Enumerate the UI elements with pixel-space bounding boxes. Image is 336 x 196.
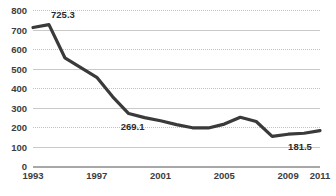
y-axis-tick-label: 600 — [11, 44, 27, 55]
x-axis-tick-label: 2001 — [150, 170, 171, 181]
y-axis-tick-label: 500 — [11, 63, 27, 74]
x-axis-tick-label: 1997 — [86, 170, 107, 181]
plot-area: 725.3269.1181.5 — [33, 10, 320, 166]
data-point-label: 725.3 — [51, 8, 75, 19]
y-axis-labels: 0100200300400500600700800 — [0, 10, 30, 166]
y-axis-tick-label: 300 — [11, 102, 27, 113]
y-axis-tick-label: 800 — [11, 5, 27, 16]
x-axis-tick-label: 1993 — [22, 170, 43, 181]
y-axis-tick-label: 700 — [11, 24, 27, 35]
y-axis-tick-label: 200 — [11, 122, 27, 133]
y-axis-tick-label: 400 — [11, 83, 27, 94]
y-axis-tick-label: 100 — [11, 141, 27, 152]
data-point-label: 269.1 — [121, 120, 145, 131]
data-series-line — [33, 10, 320, 166]
x-axis-labels: 199319972001200520092011 — [0, 170, 336, 190]
line-chart: 0100200300400500600700800 725.3269.1181.… — [0, 0, 336, 196]
x-axis-tick-label: 2011 — [310, 170, 331, 181]
data-point-label: 181.5 — [288, 140, 312, 151]
x-axis-tick-label: 2005 — [214, 170, 235, 181]
x-axis-tick-label: 2009 — [278, 170, 299, 181]
x-axis-line — [33, 166, 320, 168]
